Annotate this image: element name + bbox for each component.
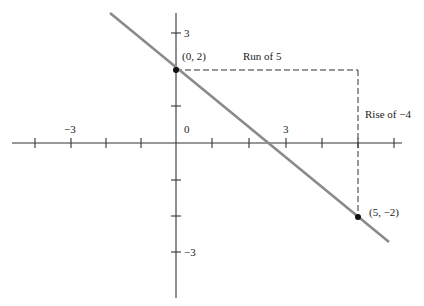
x-tick-label-3: 3 <box>283 123 289 135</box>
x-tick-label-0: 0 <box>184 123 190 135</box>
point-0-2 <box>173 67 179 73</box>
point-label-0-2: (0, 2) <box>182 50 206 63</box>
rise-label: Rise of −4 <box>365 108 411 120</box>
point-5-neg2 <box>355 214 361 220</box>
x-tick-label-neg3: −3 <box>64 123 76 135</box>
slope-diagram: −3 0 3 3 −3 (0, 2) (5, −2) Run of 5 Rise… <box>0 0 424 306</box>
graphed-line <box>110 13 389 242</box>
y-tick-label-3: 3 <box>184 27 190 39</box>
point-label-5-neg2: (5, −2) <box>369 206 399 219</box>
run-label: Run of 5 <box>243 50 282 62</box>
y-tick-label-neg3: −3 <box>184 246 196 258</box>
x-axis <box>12 138 402 148</box>
y-axis <box>171 13 181 298</box>
